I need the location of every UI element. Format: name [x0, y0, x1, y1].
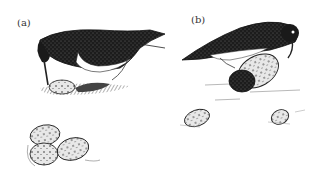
- bird-body-icon: [40, 30, 165, 70]
- illustration-drawing: [0, 0, 330, 183]
- egg-icon: [55, 134, 92, 164]
- egg-icon: [49, 80, 75, 94]
- panel-label-a: (a): [17, 17, 31, 28]
- panel-b-drawing: [182, 22, 300, 100]
- egg-icon: [30, 143, 58, 165]
- illustration-figure: (a) (b): [0, 0, 330, 183]
- panel-b-eggs: [180, 106, 305, 130]
- panel-a-eggs: [27, 123, 100, 166]
- panel-label-b: (b): [191, 14, 205, 25]
- egg-icon: [229, 70, 255, 92]
- panel-a-drawing: [37, 30, 165, 95]
- egg-icon: [269, 107, 291, 127]
- egg-icon: [182, 106, 212, 130]
